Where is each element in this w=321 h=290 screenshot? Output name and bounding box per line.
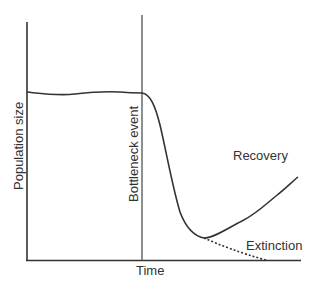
x-axis-label: Time [136,263,164,278]
recovery-label: Recovery [233,148,288,163]
bottleneck-event-label: Bottleneck event [126,105,141,202]
plateau-curve [27,92,142,95]
population-bottleneck-diagram: Time Population size Bottleneck event Re… [0,0,321,290]
decline-curve [142,93,204,238]
extinction-label: Extinction [246,238,302,253]
y-axis-label: Population size [11,102,26,190]
recovery-curve [204,177,298,238]
